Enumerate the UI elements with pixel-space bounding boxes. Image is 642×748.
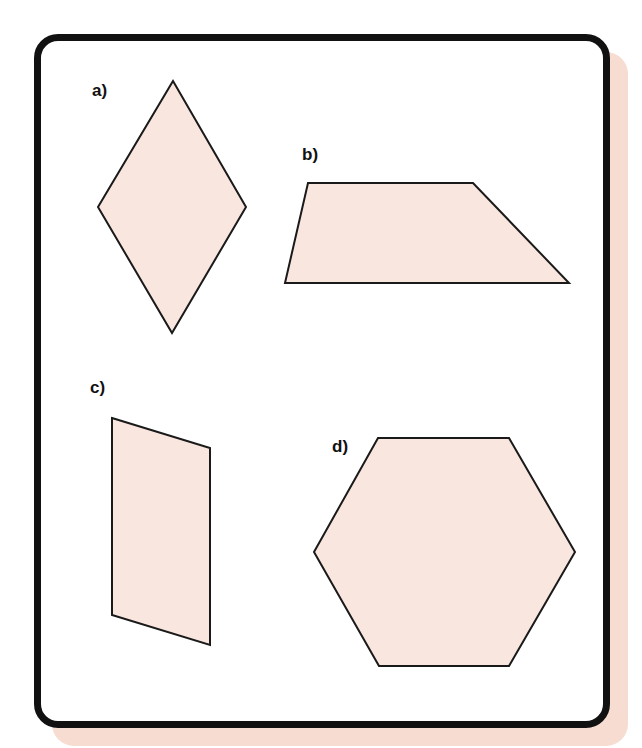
shape-b-label: b) xyxy=(302,145,318,164)
shape-a-label: a) xyxy=(92,81,107,100)
shape-c-parallelogram xyxy=(112,418,210,645)
shape-d-label: d) xyxy=(332,437,348,456)
shape-b-trapezoid xyxy=(285,183,569,283)
shapes-canvas: a) b) c) d) xyxy=(0,0,642,748)
shape-c-group: c) xyxy=(90,378,210,645)
shape-d-hexagon xyxy=(314,438,575,666)
shape-a-group: a) xyxy=(92,81,246,333)
shape-a-rhombus xyxy=(98,81,246,333)
shape-d-group: d) xyxy=(314,437,575,666)
shape-c-label: c) xyxy=(90,378,105,397)
shape-b-group: b) xyxy=(285,145,569,283)
